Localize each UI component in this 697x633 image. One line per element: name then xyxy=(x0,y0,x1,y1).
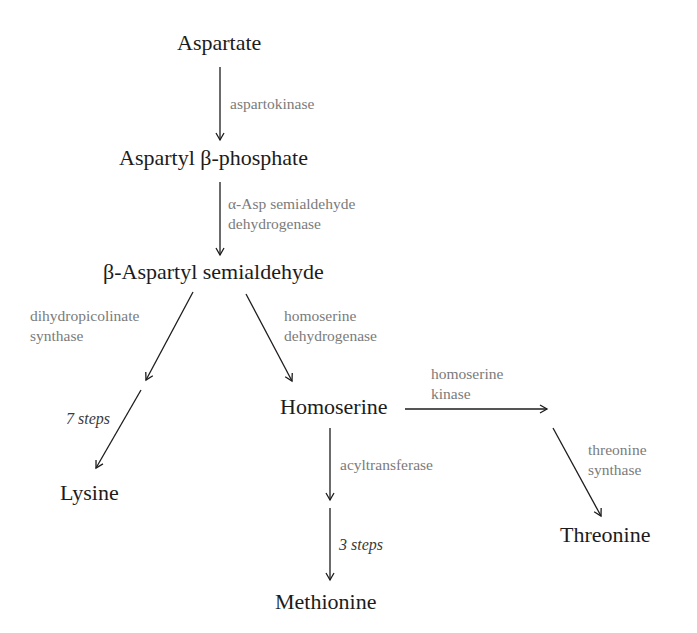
enzyme-homoserine-dehydrogenase: homoserine dehydrogenase xyxy=(284,306,377,346)
enzyme-line: dehydrogenase xyxy=(284,326,377,346)
aspartate-pathway-diagram: Aspartate Aspartyl β-phosphate β-Asparty… xyxy=(0,0,697,633)
node-threonine: Threonine xyxy=(560,524,650,546)
node-aspartate: Aspartate xyxy=(177,32,261,54)
enzyme-line: dihydropicolinate xyxy=(30,306,139,326)
enzyme-line: synthase xyxy=(588,460,647,480)
lysine-step-count: 7 steps xyxy=(66,410,110,428)
node-methionine: Methionine xyxy=(275,591,376,613)
methionine-step-count: 3 steps xyxy=(339,536,383,554)
enzyme-line: dehydrogenase xyxy=(228,214,355,234)
enzyme-line: threonine xyxy=(588,440,647,460)
enzyme-line: kinase xyxy=(431,384,503,404)
node-lysine: Lysine xyxy=(60,482,119,504)
enzyme-threonine-synthase: threonine synthase xyxy=(588,440,647,480)
enzyme-line: aspartokinase xyxy=(230,94,314,114)
enzyme-aspartokinase: aspartokinase xyxy=(230,94,314,114)
node-aspartyl-phosphate: Aspartyl β-phosphate xyxy=(119,147,308,169)
enzyme-line: homoserine xyxy=(431,364,503,384)
enzyme-acyltransferase: acyltransferase xyxy=(340,455,433,475)
enzyme-line: homoserine xyxy=(284,306,377,326)
node-aspartyl-semialdehyde: β-Aspartyl semialdehyde xyxy=(103,261,324,283)
node-homoserine: Homoserine xyxy=(280,396,388,418)
arrow-lysine-step2 xyxy=(96,390,141,468)
enzyme-asp-semialdehyde-dehydrogenase: α-Asp semialdehyde dehydrogenase xyxy=(228,194,355,234)
enzyme-dihydropicolinate-synthase: dihydropicolinate synthase xyxy=(30,306,139,346)
arrow-semialdehyde-to-lysine-step1 xyxy=(146,292,193,380)
enzyme-homoserine-kinase: homoserine kinase xyxy=(431,364,503,404)
enzyme-line: acyltransferase xyxy=(340,455,433,475)
enzyme-line: synthase xyxy=(30,326,139,346)
enzyme-line: α-Asp semialdehyde xyxy=(228,194,355,214)
